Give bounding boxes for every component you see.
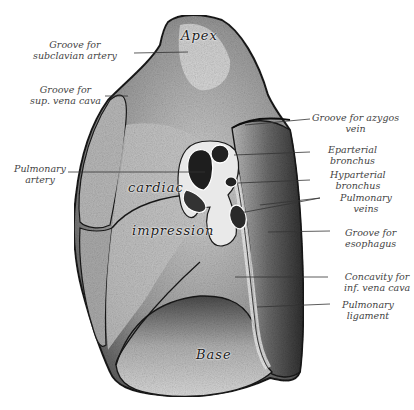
label-groove-sup-vena-cava: Groove for sup. vena cava xyxy=(30,85,101,106)
label-concavity-inf-vena-cava: Concavity for inf. vena cava xyxy=(344,272,410,293)
cardiac-label: cardiac xyxy=(128,180,184,195)
base-label: Base xyxy=(196,347,232,362)
label-groove-azygos-vein: Groove for azygos vein xyxy=(312,113,399,134)
label-pulmonary-artery: Pulmonary artery xyxy=(14,164,66,185)
label-eparterial-bronchus: Eparterial bronchus xyxy=(328,145,377,166)
label-pulmonary-ligament: Pulmonary ligament xyxy=(342,300,394,321)
label-groove-esophagus: Groove for esophagus xyxy=(345,228,396,249)
impression-label: impression xyxy=(132,223,214,238)
label-groove-subclavian-artery: Groove for subclavian artery xyxy=(33,40,117,61)
apex-label: Apex xyxy=(181,28,218,43)
lung-illustration: Apex cardiac impression Base Groove for … xyxy=(0,0,414,410)
label-hyparterial-bronchus: Hyparterial bronchus xyxy=(330,170,386,191)
label-pulmonary-veins: Pulmonary veins xyxy=(340,193,392,214)
